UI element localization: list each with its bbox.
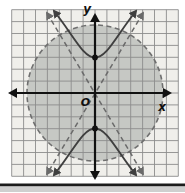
conic-graph: y x O	[0, 0, 185, 192]
bottom-strip	[0, 187, 185, 193]
origin-label: O	[81, 96, 90, 109]
bottom-rule	[0, 184, 185, 187]
x-axis-label: x	[157, 100, 167, 114]
y-axis-label: y	[83, 2, 92, 16]
vertex-point-bottom	[92, 126, 98, 132]
vertex-point-top	[92, 55, 98, 61]
math-figure-page: y x O	[0, 0, 185, 192]
